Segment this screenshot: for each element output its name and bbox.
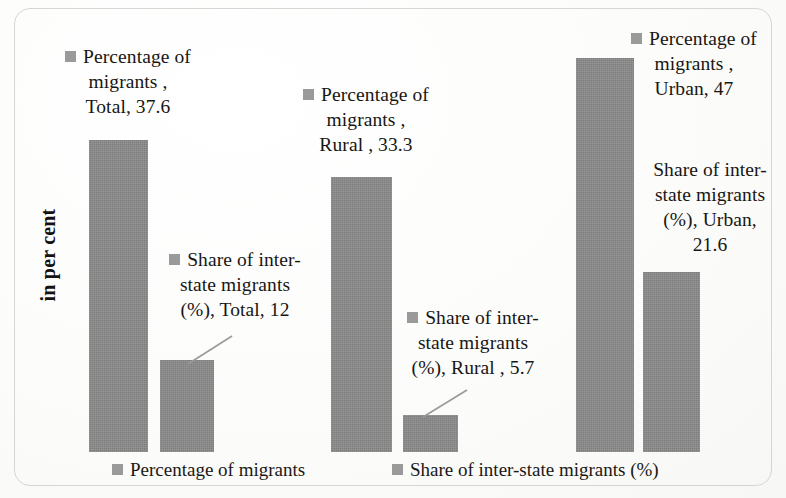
data-label-rural-percentage: Percentage of migrants , Rural , 33.3 [276, 82, 456, 157]
chart-legend: Percentage of migrants Share of inter-st… [0, 459, 786, 489]
data-label-urban-percentage: Percentage of migrants , Urban, 47 [604, 26, 784, 101]
legend-marker-icon [392, 464, 403, 475]
bar-urban-share-interstate[interactable] [643, 272, 700, 452]
leader-line-rural-share [415, 390, 475, 420]
bar-rural-share-interstate[interactable] [403, 415, 458, 452]
leader-line-total-share [180, 336, 240, 366]
series-marker-icon [169, 254, 180, 265]
series-marker-icon [65, 51, 76, 62]
y-axis-title: in per cent [37, 45, 60, 185]
bar-total-share-interstate[interactable] [160, 360, 214, 452]
bar-urban-percentage-of-migrants[interactable] [576, 58, 634, 452]
series-marker-icon [407, 312, 418, 323]
figure-page: Percentage of migrants , Total, 37.6 Sha… [0, 0, 786, 498]
legend-item-percentage-of-migrants[interactable]: Percentage of migrants [112, 459, 305, 481]
data-label-urban-share: Share of inter- state migrants (%), Urba… [634, 157, 786, 257]
data-label-total-share: Share of inter- state migrants (%), Tota… [140, 247, 330, 322]
series-marker-icon [303, 89, 314, 100]
chart-plot-area: Percentage of migrants , Total, 37.6 Sha… [0, 0, 786, 498]
legend-item-share-interstate-migrants[interactable]: Share of inter-state migrants (%) [392, 459, 659, 481]
legend-marker-icon [112, 464, 123, 475]
data-label-rural-share: Share of inter- state migrants (%), Rura… [378, 305, 568, 380]
series-marker-icon [631, 33, 642, 44]
data-label-total-percentage: Percentage of migrants , Total, 37.6 [38, 44, 218, 119]
